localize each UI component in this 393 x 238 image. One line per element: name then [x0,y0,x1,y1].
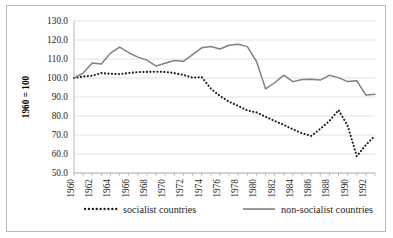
x-axis-tick-label: 1986 [303,179,313,198]
x-axis-tick-label: 1990 [340,179,350,198]
chart-legend: socialist countriesnon-socialist countri… [85,204,373,215]
x-axis-tick-labels: 1960196219641966196819701972197419761978… [66,179,368,198]
y-axis-title: 1960 = 100 [21,75,31,118]
y-axis-tick-label: 100.0 [47,73,68,83]
y-axis-tick-labels: 130.0120.0110.0100.090.080.070.060.050.0 [47,16,68,178]
y-axis-tick-label: 130.0 [47,16,68,26]
series-line-non-socialist [74,44,375,95]
legend-label-non-socialist: non-socialist countries [281,204,373,215]
y-axis-tick-label: 110.0 [47,54,68,64]
x-axis-tick-label: 1972 [175,179,185,198]
x-axis-tick-label: 1964 [102,179,112,198]
gridlines-group [74,21,375,173]
x-axis-tick-label: 1974 [194,179,204,198]
x-axis-tick-label: 1970 [157,179,167,198]
y-axis-tick-label: 50.0 [52,168,69,178]
x-axis-tick-label: 1984 [285,179,295,198]
y-axis-tick-label: 80.0 [52,111,69,121]
y-axis-tick-label: 90.0 [52,92,69,102]
y-axis-tick-label: 60.0 [52,149,69,159]
y-axis-tick-label: 120.0 [47,35,68,45]
x-axis-tick-label: 1960 [66,179,76,198]
x-axis-tick-label: 1966 [121,179,131,198]
y-axis-tick-label: 70.0 [52,130,69,140]
x-axis-tick-label: 1976 [212,179,222,198]
x-axis-tick-label: 1978 [230,179,240,198]
x-axis-tick-label: 1968 [139,179,149,198]
line-chart: 130.0120.0110.0100.090.080.070.060.050.0… [7,6,387,233]
data-series-group [74,44,375,156]
x-axis-tick-label: 1988 [321,179,331,198]
legend-label-socialist: socialist countries [123,204,196,215]
chart-container: 130.0120.0110.0100.090.080.070.060.050.0… [6,5,386,232]
x-axis-tick-label: 1980 [248,179,258,198]
x-axis-tick-label: 1992 [358,179,368,198]
x-axis-tick-label: 1962 [84,179,94,198]
x-axis-tick-label: 1982 [267,179,277,198]
series-line-socialist [74,72,375,157]
y-axis-title-text: 1960 = 100 [21,75,31,118]
